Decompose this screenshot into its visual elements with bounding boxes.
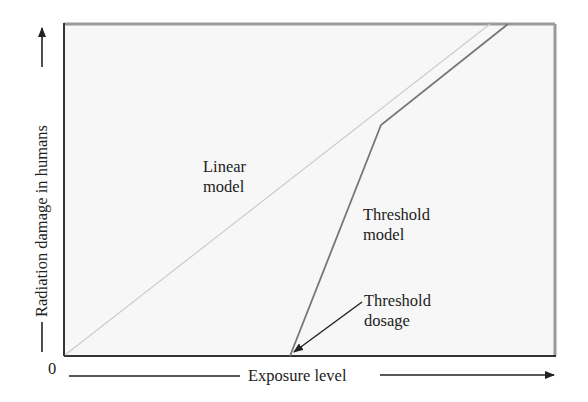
- x-axis-label: Exposure level: [248, 366, 347, 385]
- threshold-model-label-line1: Threshold: [363, 205, 431, 224]
- origin-label: 0: [48, 359, 56, 378]
- threshold-dosage-label-line2: dosage: [364, 311, 410, 330]
- linear-model-label-line2: model: [203, 177, 245, 196]
- y-axis-label: Radiation damage in humans: [32, 125, 51, 317]
- threshold-model-label-line2: model: [363, 225, 405, 244]
- threshold-dosage-label-line1: Threshold: [364, 291, 432, 310]
- chart-figure: Linear model Threshold model Threshold d…: [0, 0, 588, 402]
- linear-model-label-line1: Linear: [203, 157, 247, 176]
